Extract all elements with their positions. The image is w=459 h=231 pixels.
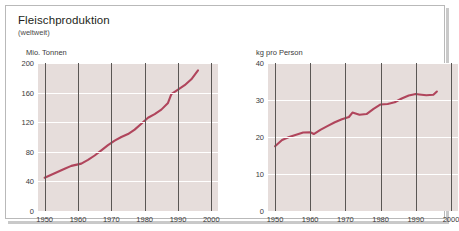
- y-tick-30-right: 30: [256, 96, 264, 105]
- gridline-horizontal-80: [38, 152, 218, 153]
- y-axis-labels-right: 40 30 20 10 0: [246, 63, 266, 211]
- y-tick-10-right: 10: [256, 170, 264, 179]
- plot-area-left: [38, 63, 218, 211]
- x-axis-labels-right: 195019601970198019902000: [268, 213, 458, 227]
- x-tick-2000: 2000: [203, 215, 220, 224]
- gridline-vertical-1990: [416, 63, 417, 211]
- gridline-vertical-1950: [45, 63, 46, 211]
- x-tick-1990: 1990: [170, 215, 187, 224]
- gridline-vertical-1970: [345, 63, 346, 211]
- y-tick-40: 40: [26, 177, 34, 186]
- gridline-vertical-1980: [381, 63, 382, 211]
- x-tick-1970: 1970: [337, 215, 354, 224]
- page-subtitle: (weltweit): [18, 28, 50, 37]
- x-tick-1980: 1980: [372, 215, 389, 224]
- x-tick-1950: 1950: [36, 215, 53, 224]
- x-tick-1960: 1960: [70, 215, 87, 224]
- gridline-vertical-1980: [145, 63, 146, 211]
- gridline-horizontal-20: [268, 137, 458, 138]
- x-tick-1970: 1970: [103, 215, 120, 224]
- gridline-horizontal-40: [38, 181, 218, 182]
- gridline-vertical-2000: [211, 63, 212, 211]
- gridline-horizontal-40: [268, 63, 458, 64]
- series-line-production-total: [38, 63, 218, 211]
- gridline-horizontal-120: [38, 122, 218, 123]
- x-axis-labels-left: 195019601970198019902000: [38, 213, 218, 227]
- x-tick-1950: 1950: [267, 215, 284, 224]
- page-title: Fleischproduktion: [18, 14, 110, 26]
- plot-area-right: [268, 63, 458, 211]
- y-tick-40-right: 40: [256, 59, 264, 68]
- x-tick-1980: 1980: [136, 215, 153, 224]
- x-tick-1960: 1960: [302, 215, 319, 224]
- y-tick-0: 0: [30, 207, 34, 216]
- gridline-horizontal-200: [38, 63, 218, 64]
- gridline-horizontal-30: [268, 100, 458, 101]
- y-tick-0-right: 0: [260, 207, 264, 216]
- y-tick-120: 120: [21, 118, 34, 127]
- gridline-vertical-1950: [275, 63, 276, 211]
- y-tick-20-right: 20: [256, 133, 264, 142]
- y-axis-unit-label-right: kg pro Person: [256, 48, 303, 57]
- gridline-horizontal-160: [38, 93, 218, 94]
- gridline-vertical-1970: [111, 63, 112, 211]
- gridline-vertical-2000: [451, 63, 452, 211]
- x-tick-2000: 2000: [443, 215, 459, 224]
- gridline-vertical-1990: [178, 63, 179, 211]
- y-axis-labels-left: 200 160 120 80 40 0: [16, 63, 36, 211]
- y-axis-unit-label: Mio. Tonnen: [26, 48, 67, 57]
- chart-card: Fleischproduktion (weltweit) Mio. Tonnen…: [5, 5, 445, 219]
- y-tick-200: 200: [21, 59, 34, 68]
- y-tick-160: 160: [21, 88, 34, 97]
- y-tick-80: 80: [26, 147, 34, 156]
- gridline-vertical-1960: [78, 63, 79, 211]
- x-tick-1990: 1990: [407, 215, 424, 224]
- gridline-horizontal-10: [268, 174, 458, 175]
- gridline-vertical-1960: [310, 63, 311, 211]
